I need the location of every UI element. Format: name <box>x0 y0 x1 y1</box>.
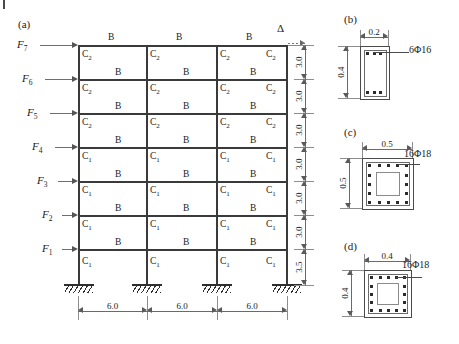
column-label: C1 <box>220 186 230 198</box>
rebar <box>370 309 373 312</box>
force-arrow-f4 <box>55 142 78 152</box>
beam-label: B <box>176 33 182 43</box>
rebar-callout-c: 16Φ18 <box>404 148 431 159</box>
rebar <box>378 201 381 204</box>
column-label: C2 <box>150 50 160 62</box>
rebar <box>379 276 382 279</box>
column-label: C1 <box>266 257 276 269</box>
rebar-leader-line <box>373 52 409 53</box>
force-arrow-f1 <box>62 244 78 254</box>
fixed-support-3 <box>202 284 232 293</box>
rebar <box>378 164 381 167</box>
rebar <box>395 309 398 312</box>
column-label: C1 <box>220 220 230 232</box>
force-arrow-f6 <box>45 74 78 84</box>
column-label: C1 <box>266 152 276 164</box>
rebar <box>396 201 399 204</box>
beam-label: B <box>183 102 189 112</box>
rebar <box>387 201 390 204</box>
beam-level-1 <box>78 249 288 251</box>
beam-level-5 <box>78 113 288 115</box>
column-label: C2 <box>266 50 276 62</box>
dimension-story-2: 3.0 <box>298 215 312 249</box>
dimension-story-4: 3.0 <box>298 147 312 181</box>
rebar-callout-b: 6Φ16 <box>409 44 431 55</box>
extension-line <box>342 316 364 317</box>
rebar <box>370 293 373 296</box>
column-label: C1 <box>82 186 92 198</box>
force-label-f2: F2 <box>42 208 52 223</box>
column-label: C2 <box>150 84 160 96</box>
column-label: C1 <box>82 257 92 269</box>
column-label: C2 <box>150 118 160 130</box>
column-label: C2 <box>266 84 276 96</box>
rebar <box>405 174 408 177</box>
ground-column-1 <box>78 249 80 285</box>
column-label: C2 <box>82 118 92 130</box>
dimension-section-c-height: 0.5 <box>342 158 356 208</box>
beam-label: B <box>250 238 256 248</box>
rebar <box>403 309 406 312</box>
rebar <box>370 276 373 279</box>
displacement-symbol: Δ <box>277 22 284 34</box>
rebar <box>405 183 408 186</box>
section-c-outline <box>362 158 414 210</box>
rebar <box>387 276 390 279</box>
beam-label: B <box>108 33 114 43</box>
beam-label: B <box>246 33 252 43</box>
dimension-story-7: 3.0 <box>298 45 312 79</box>
panel-tag-d: (d) <box>344 240 357 252</box>
panel-tag-a: (a) <box>18 18 30 30</box>
panel-tag-b: (b) <box>344 13 357 25</box>
column-label: C2 <box>82 84 92 96</box>
rebar <box>368 192 371 195</box>
rebar <box>373 91 376 94</box>
column-label: C1 <box>220 257 230 269</box>
panel-tag-c: (c) <box>344 126 356 138</box>
column-label: C1 <box>82 152 92 164</box>
ground-column-2 <box>146 249 148 285</box>
rebar <box>405 192 408 195</box>
dimension-bay-1: 6.0 <box>78 304 147 318</box>
column-label: C1 <box>150 152 160 164</box>
fixed-support-1 <box>64 284 94 293</box>
force-label-f1: F1 <box>42 242 52 257</box>
beam-label: B <box>183 170 189 180</box>
force-label-f6: F6 <box>22 72 32 87</box>
rebar <box>403 285 406 288</box>
rebar <box>370 285 373 288</box>
extension-line <box>287 296 288 320</box>
beam-label: B <box>183 136 189 146</box>
dimension-story-1: 3.5 <box>298 249 312 285</box>
rebar-leader-line <box>396 277 422 278</box>
ground-column-3 <box>216 249 218 285</box>
rebar <box>379 91 382 94</box>
column-label: C2 <box>220 50 230 62</box>
force-arrow-f2 <box>62 210 78 220</box>
frame-structure <box>78 45 288 285</box>
column-label: C2 <box>82 50 92 62</box>
column-label: C2 <box>220 118 230 130</box>
column-label: C2 <box>266 118 276 130</box>
beam-level-7 <box>78 45 288 47</box>
section-c-inner-tie <box>376 172 400 196</box>
rebar <box>368 183 371 186</box>
rebar <box>366 52 369 55</box>
extension-line <box>294 285 314 286</box>
beam-level-4 <box>78 147 288 149</box>
force-arrow-f5 <box>50 108 78 118</box>
beam-level-2 <box>78 215 288 217</box>
dimension-section-d-height: 0.4 <box>344 270 358 316</box>
section-d-inner-tie <box>377 283 399 305</box>
rebar <box>405 201 408 204</box>
beam-label: B <box>250 170 256 180</box>
rebar <box>403 293 406 296</box>
dimension-story-6: 3.0 <box>298 79 312 113</box>
corner-artifact <box>3 0 5 9</box>
rebar-callout-d: 16Φ18 <box>402 259 429 270</box>
force-label-f4: F4 <box>32 140 42 155</box>
beam-label: B <box>115 102 121 112</box>
beam-label: B <box>250 204 256 214</box>
beam-label: B <box>115 170 121 180</box>
ground-column-4 <box>286 249 288 285</box>
